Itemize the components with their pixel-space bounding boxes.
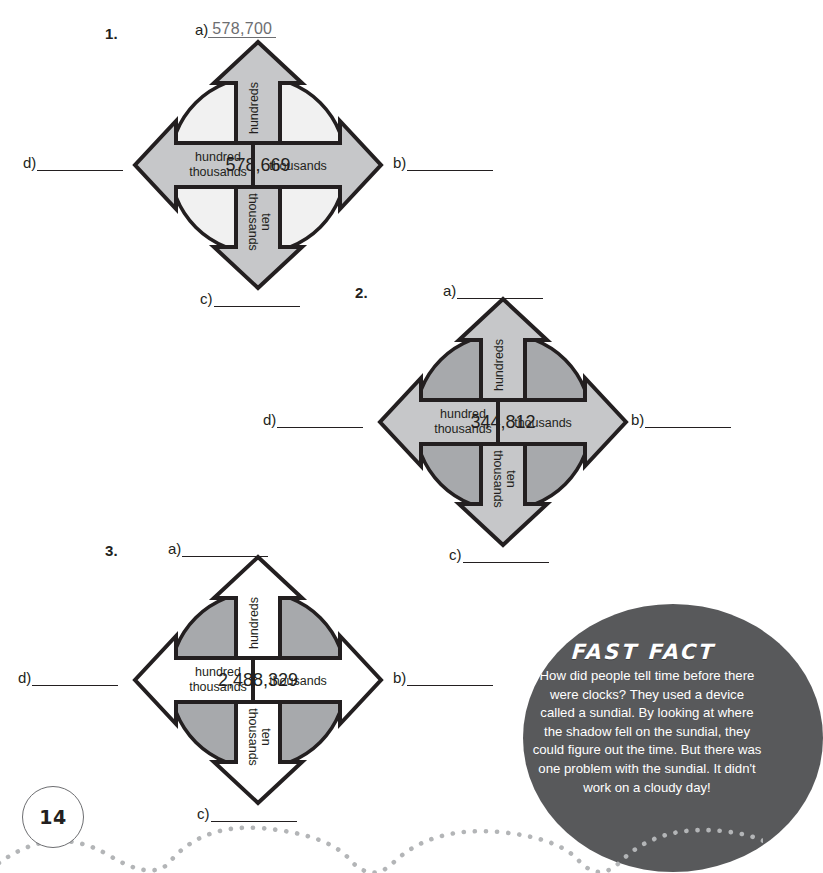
arrow-up-label: hundreds [492, 339, 506, 391]
arrow-left-label-line2: thousands [189, 680, 247, 694]
blank-label: a) [195, 22, 208, 38]
arrow-left-label-line1: hundred [195, 150, 241, 164]
fast-fact-body: How did people tell time before there we… [531, 667, 815, 797]
problem-number-3: 3. [105, 542, 118, 559]
problem-1-blank-a[interactable]: a) 578,700 [195, 21, 276, 38]
blank-label: c) [200, 291, 213, 307]
arrow-down-label-line2: thousands [491, 450, 505, 508]
problem-3-blank-d[interactable]: d) [18, 670, 118, 686]
blank-line[interactable] [277, 413, 363, 428]
problem-1-blank-d[interactable]: d) [23, 155, 123, 171]
arrow-left-label-line1: hundred [195, 665, 241, 679]
arrow-right-label: thousands [269, 674, 327, 688]
place-value-diagram-2: 344,812 hundreds ten thousands hundred t… [363, 297, 643, 547]
blank-label: d) [23, 155, 36, 171]
arrow-down-label-line2: thousands [246, 708, 260, 766]
place-value-diagram-1: 578,669 hundreds ten thousands hundred t… [118, 40, 398, 290]
problem-1-blank-c[interactable]: c) [200, 291, 300, 307]
page-number: 14 [39, 806, 66, 828]
arrow-down-label-line2: thousands [246, 193, 260, 251]
scallop-path [0, 828, 763, 873]
blank-line[interactable] [214, 292, 300, 307]
blank-label: c) [449, 547, 462, 563]
arrow-left-label-line2: thousands [189, 165, 247, 179]
blank-line[interactable] [32, 671, 118, 686]
arrow-right-label: thousands [269, 159, 327, 173]
arrow-up-label: hundreds [247, 82, 261, 134]
arrow-down-label-line1: ten [504, 470, 518, 487]
arrow-right-label: thousands [514, 416, 572, 430]
blank-line[interactable] [463, 548, 549, 563]
problem-1-blank-b[interactable]: b) [393, 155, 493, 171]
arrow-up-label: hundreds [247, 597, 261, 649]
blank-line[interactable] [407, 156, 493, 171]
decorative-dotted-scallop [0, 812, 763, 873]
blank-answer[interactable]: 578,700 [208, 21, 276, 38]
fast-fact-title: FAST FACT [523, 640, 823, 664]
problem-3-blank-b[interactable]: b) [393, 670, 493, 686]
arrow-left-label-line1: hundred [440, 407, 486, 421]
arrow-left-label-line2: thousands [434, 422, 492, 436]
place-value-diagram-3: 2,488,329 hundreds ten thousands hundred… [118, 555, 398, 805]
problem-number-1: 1. [105, 25, 118, 42]
problem-2-blank-d[interactable]: d) [263, 412, 363, 428]
blank-line[interactable] [37, 156, 123, 171]
blank-line[interactable] [645, 413, 731, 428]
blank-label: d) [263, 412, 276, 428]
arrow-down-label-line1: ten [259, 728, 273, 745]
page-number-badge: 14 [22, 786, 84, 848]
problem-2-blank-b[interactable]: b) [631, 412, 731, 428]
arrow-down-label-line1: ten [259, 213, 273, 230]
blank-label: d) [18, 670, 31, 686]
blank-line[interactable] [407, 671, 493, 686]
problem-2-blank-c[interactable]: c) [449, 547, 549, 563]
